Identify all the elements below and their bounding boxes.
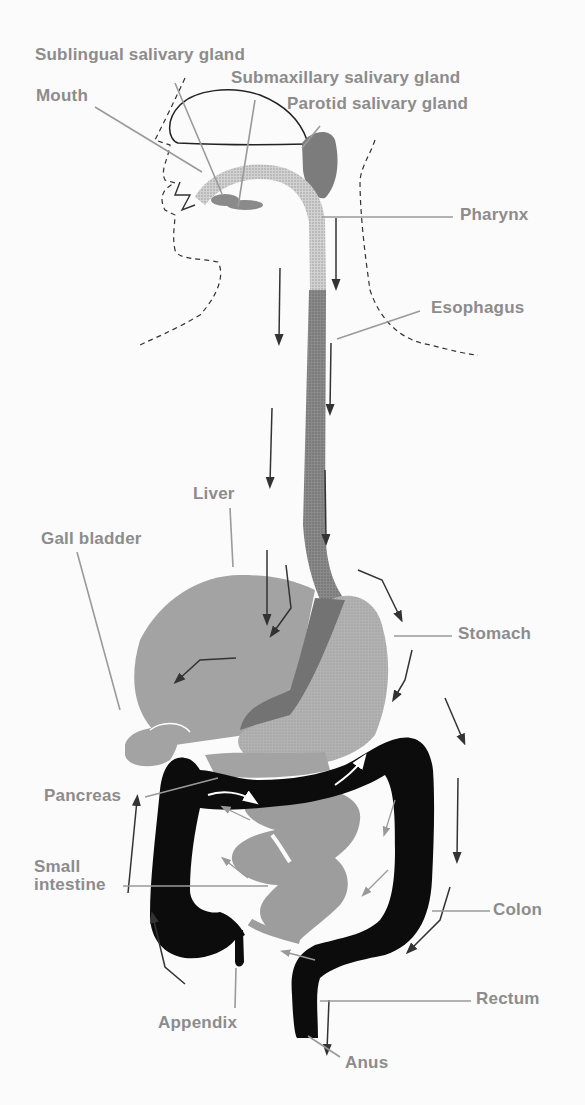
- label-appendix: Appendix: [158, 1014, 237, 1032]
- label-mouth: Mouth: [36, 87, 88, 105]
- label-esophagus: Esophagus: [431, 299, 524, 317]
- anatomy-illustration: [0, 0, 585, 1105]
- label-pancreas: Pancreas: [44, 787, 121, 805]
- label-gall-bladder: Gall bladder: [41, 530, 142, 548]
- label-liver: Liver: [193, 485, 235, 503]
- submaxillary-gland: [227, 200, 263, 210]
- appendix: [235, 930, 244, 967]
- label-pharynx: Pharynx: [460, 206, 529, 224]
- label-parotid-salivary-gland: Parotid salivary gland: [287, 95, 468, 113]
- label-small-intestine: Small intestine: [34, 858, 106, 894]
- label-stomach: Stomach: [458, 625, 531, 643]
- mouth-pharynx-tube: [195, 165, 326, 290]
- label-colon: Colon: [493, 901, 542, 919]
- small-intestine: [232, 788, 360, 941]
- label-submaxillary-salivary-gland: Submaxillary salivary gland: [231, 69, 460, 87]
- pancreas: [205, 752, 330, 778]
- label-sublingual-salivary-gland: Sublingual salivary gland: [35, 46, 245, 64]
- digestive-system-diagram: Sublingual salivary gland Submaxillary s…: [0, 0, 585, 1105]
- gall-bladder: [125, 727, 178, 766]
- lips: [175, 182, 195, 210]
- label-anus: Anus: [345, 1054, 388, 1072]
- label-rectum: Rectum: [476, 990, 540, 1008]
